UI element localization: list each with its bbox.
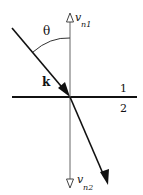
k-label: k [42, 75, 51, 89]
theta-label: θ [43, 24, 50, 38]
diagram-svg: θ k v n1 v n2 1 2 [0, 0, 143, 195]
v-n1-subscript: n1 [81, 20, 91, 29]
v-n2-subscript: n2 [83, 183, 93, 192]
incident-k-vector [12, 28, 66, 92]
theta-arc [33, 38, 70, 52]
medium-2-label: 2 [120, 102, 127, 115]
v-n1-arrow-icon [67, 13, 74, 22]
refraction-diagram: θ k v n1 v n2 1 2 [0, 0, 143, 195]
refracted-vector [70, 97, 104, 176]
v-n2-arrow-icon [67, 179, 74, 188]
medium-1-label: 1 [120, 82, 127, 95]
